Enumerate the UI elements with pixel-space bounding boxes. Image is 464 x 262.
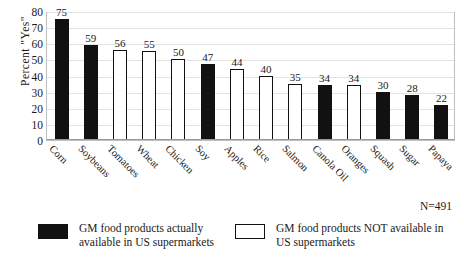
legend-item[interactable]: GM food products NOT available inUS supe… xyxy=(235,221,443,250)
bar[interactable] xyxy=(318,85,332,140)
bar-slot: 35 xyxy=(281,12,310,140)
bar[interactable] xyxy=(84,45,98,140)
legend-label-line: GM food products actually xyxy=(79,221,214,235)
y-axis-tick-label: 10 xyxy=(32,119,44,131)
y-axis-tick-label: 0 xyxy=(37,135,43,147)
bar-value-label: 22 xyxy=(436,92,447,104)
bar-slot: 44 xyxy=(222,12,251,140)
bar-slot: 47 xyxy=(193,12,222,140)
bar[interactable] xyxy=(113,50,127,140)
x-axis-tick-label: Corn xyxy=(47,143,70,166)
y-axis-tick-label: 40 xyxy=(32,70,44,82)
bar-value-label: 75 xyxy=(56,6,67,18)
bar-slot: 56 xyxy=(105,12,134,140)
y-axis-tick-label: 70 xyxy=(32,22,44,34)
bar[interactable] xyxy=(434,105,448,140)
bar[interactable] xyxy=(142,51,156,140)
x-axis-tick-label: Squash xyxy=(368,143,397,172)
bar-value-label: 34 xyxy=(348,72,359,84)
bar-value-label: 55 xyxy=(144,38,155,50)
bar[interactable] xyxy=(347,85,361,140)
bar-chart-figure: Percent "Yes" 01020304050607080 75595655… xyxy=(0,0,464,262)
x-axis-tick-label: Sugar xyxy=(397,143,422,168)
bar-value-label: 56 xyxy=(115,37,126,49)
bar-value-label: 44 xyxy=(231,56,242,68)
bar-slot: 55 xyxy=(135,12,164,140)
y-axis-tick-label: 30 xyxy=(32,86,44,98)
chart-legend: GM food products actuallyavailable in US… xyxy=(38,221,458,255)
bar-value-label: 40 xyxy=(261,63,272,75)
bar-slot: 30 xyxy=(368,12,397,140)
legend-swatch xyxy=(38,224,68,239)
legend-swatch xyxy=(235,224,265,239)
x-axis-tick-label: Salmon xyxy=(281,143,311,173)
legend-label-line: GM food products NOT available in xyxy=(276,221,443,235)
bar-value-label: 35 xyxy=(290,71,301,83)
y-axis-title: Percent "Yes" xyxy=(19,0,31,106)
x-axis-tick-label: Chicken xyxy=(164,143,197,176)
bar-value-label: 50 xyxy=(173,46,184,58)
bar[interactable] xyxy=(259,76,273,141)
legend-label-line: available in US supermarkets xyxy=(79,235,214,249)
legend-label: GM food products actuallyavailable in US… xyxy=(79,221,214,250)
bar-value-label: 28 xyxy=(407,82,418,94)
x-axis-tick-label: Rice xyxy=(251,143,272,164)
y-axis-tick-label: 20 xyxy=(32,103,44,115)
bar-slot: 34 xyxy=(310,12,339,140)
bar-value-label: 30 xyxy=(377,79,388,91)
bar[interactable] xyxy=(376,92,390,140)
x-axis-ticks: CornSoybeansTomatoesWheatChickenSoyApple… xyxy=(46,143,455,199)
y-axis-tick-label: 60 xyxy=(32,38,44,50)
legend-label-line: US supermarkets xyxy=(276,235,443,249)
legend-label: GM food products NOT available inUS supe… xyxy=(276,221,443,250)
y-axis-tick-label: 50 xyxy=(32,54,44,66)
bar[interactable] xyxy=(230,69,244,140)
bar-value-label: 59 xyxy=(85,32,96,44)
bar-slot: 50 xyxy=(164,12,193,140)
bar-value-label: 34 xyxy=(319,72,330,84)
bar-slot: 34 xyxy=(339,12,368,140)
legend-item[interactable]: GM food products actuallyavailable in US… xyxy=(38,221,214,250)
bar-slot: 28 xyxy=(398,12,427,140)
x-axis-tick-label: Soy xyxy=(193,143,212,162)
x-axis-tick-label: Apples xyxy=(222,143,251,172)
y-axis-tick-label: 80 xyxy=(32,6,44,18)
x-axis-line xyxy=(47,139,454,140)
bar[interactable] xyxy=(171,59,185,140)
bar[interactable] xyxy=(405,95,419,140)
bar[interactable] xyxy=(55,19,69,140)
bar[interactable] xyxy=(288,84,302,140)
bar-slot: 59 xyxy=(76,12,105,140)
bar-slot: 40 xyxy=(252,12,281,140)
bar-slot: 75 xyxy=(47,12,76,140)
x-axis-tick-label: Wheat xyxy=(134,143,161,170)
plot-area: 01020304050607080 7559565550474440353434… xyxy=(46,12,455,141)
x-axis-tick-label: Papaya xyxy=(427,143,456,172)
bar-value-label: 47 xyxy=(202,51,213,63)
sample-size-annotation: N=491 xyxy=(420,200,452,212)
bar[interactable] xyxy=(201,64,215,140)
bar-slot: 22 xyxy=(427,12,456,140)
